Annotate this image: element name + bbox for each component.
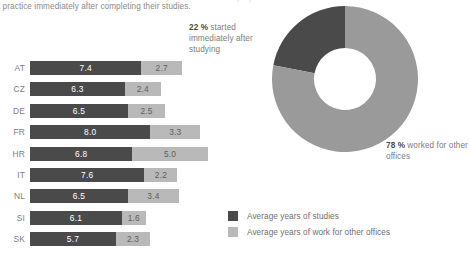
bar-segment-studies: 7.6 <box>30 168 144 182</box>
legend-label: Average years of work for other offices <box>247 225 390 241</box>
bar-category-label: FR <box>0 125 25 139</box>
bar-segment-value: 6.5 <box>30 104 128 118</box>
donut-annotation-other-offices: 78 % worked for other offices <box>386 140 469 162</box>
bar-segment-other-offices: 5.0 <box>132 147 207 161</box>
bar-row: IT7.62.2 <box>0 168 240 182</box>
bar-track: 5.72.3 <box>30 232 150 246</box>
legend-label: Average years of studies <box>247 209 339 225</box>
bar-track: 8.03.3 <box>30 125 200 139</box>
bar-segment-value: 6.1 <box>30 211 122 225</box>
bar-segment-value: 8.0 <box>30 125 150 139</box>
bar-category-label: SI <box>0 211 25 225</box>
bar-row: FR8.03.3 <box>0 125 240 139</box>
bar-category-label: HR <box>0 147 25 161</box>
bar-segment-studies: 6.8 <box>30 147 132 161</box>
bar-segment-value: 3.3 <box>150 125 200 139</box>
bar-segment-studies: 7.4 <box>30 61 141 75</box>
bar-segment-value: 7.6 <box>30 168 144 182</box>
legend-swatch-studies <box>228 211 238 221</box>
bar-category-label: CZ <box>0 82 25 96</box>
bar-segment-value: 7.4 <box>30 61 141 75</box>
bar-segment-studies: 6.1 <box>30 211 122 225</box>
bar-category-label: SK <box>0 232 25 246</box>
bar-row: SK5.72.3 <box>0 232 240 246</box>
bar-track: 7.42.7 <box>30 61 182 75</box>
bar-category-label: AT <box>0 61 25 75</box>
bar-segment-studies: 6.5 <box>30 189 128 203</box>
bar-segment-other-offices: 2.2 <box>144 168 177 182</box>
bar-segment-value: 6.8 <box>30 147 132 161</box>
bar-row: HR6.85.0 <box>0 147 240 161</box>
caption-line: dent practice immediately after completi… <box>0 2 191 11</box>
legend-item: Average years of studies <box>228 209 448 225</box>
chart-page: ed in the country where they study, and … <box>0 0 469 258</box>
bar-segment-other-offices: 3.4 <box>128 189 179 203</box>
bar-segment-studies: 6.3 <box>30 82 125 96</box>
bar-track: 6.32.4 <box>30 82 161 96</box>
bar-segment-value: 2.4 <box>125 82 161 96</box>
bar-segment-other-offices: 1.6 <box>122 211 146 225</box>
bar-segment-other-offices: 2.7 <box>141 61 182 75</box>
bar-category-label: DE <box>0 104 25 118</box>
stacked-bar-chart: AT7.42.7CZ6.32.4DE6.52.5FR8.03.3HR6.85.0… <box>0 55 240 251</box>
donut-annotation-bottom-value: 78 % <box>386 141 405 150</box>
bar-category-label: IT <box>0 168 25 182</box>
bar-row: CZ6.32.4 <box>0 82 240 96</box>
legend-item: Average years of work for other offices <box>228 225 448 241</box>
donut-slice-started-immediately <box>273 6 345 73</box>
bar-segment-other-offices: 2.4 <box>125 82 161 96</box>
bar-segment-value: 2.7 <box>141 61 182 75</box>
bar-segment-studies: 6.5 <box>30 104 128 118</box>
bar-segment-value: 5.0 <box>132 147 207 161</box>
chart-legend: Average years of studiesAverage years of… <box>228 209 448 241</box>
donut-annotation-started-immediately: 22 % started immediately after studying <box>189 22 275 56</box>
bar-track: 6.85.0 <box>30 147 208 161</box>
bar-row: SI6.11.6 <box>0 211 240 225</box>
donut-chart-svg <box>272 0 420 152</box>
bar-segment-value: 5.7 <box>30 232 116 246</box>
bar-category-label: NL <box>0 189 25 203</box>
bar-segment-value: 6.3 <box>30 82 125 96</box>
bar-segment-studies: 5.7 <box>30 232 116 246</box>
bar-segment-other-offices: 2.5 <box>128 104 166 118</box>
bar-segment-other-offices: 3.3 <box>150 125 200 139</box>
bar-segment-value: 1.6 <box>122 211 146 225</box>
bar-row: NL6.53.4 <box>0 189 240 203</box>
bar-track: 7.62.2 <box>30 168 177 182</box>
donut-annotation-top-value: 22 % <box>189 23 208 32</box>
bar-segment-value: 6.5 <box>30 189 128 203</box>
legend-swatch-other-offices <box>228 227 238 237</box>
bar-segment-other-offices: 2.3 <box>116 232 151 246</box>
bar-segment-studies: 8.0 <box>30 125 150 139</box>
bar-track: 6.11.6 <box>30 211 146 225</box>
bar-row: AT7.42.7 <box>0 61 240 75</box>
bar-segment-value: 2.5 <box>128 104 166 118</box>
bar-track: 6.52.5 <box>30 104 165 118</box>
bar-segment-value: 3.4 <box>128 189 179 203</box>
donut-chart <box>272 0 420 152</box>
bar-row: DE6.52.5 <box>0 104 240 118</box>
bar-segment-value: 2.3 <box>116 232 151 246</box>
bar-segment-value: 2.2 <box>144 168 177 182</box>
bar-track: 6.53.4 <box>30 189 179 203</box>
